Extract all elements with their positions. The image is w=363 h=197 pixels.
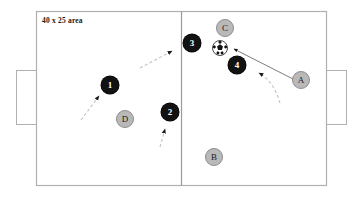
player-token-1[interactable]: 1 (101, 76, 119, 94)
player-token-label: B (211, 153, 217, 162)
right-goal (327, 71, 347, 125)
run-toward-player-2 (160, 129, 165, 147)
left-goal (17, 71, 37, 125)
player-token-label: D (122, 115, 129, 124)
player-token-label: 2 (168, 108, 173, 117)
player-token-b[interactable]: B (205, 148, 223, 166)
player-token-label: C (222, 24, 228, 33)
run-toward-upper-right (140, 51, 172, 68)
pitch-graphics (0, 0, 363, 197)
player-token-3[interactable]: 3 (183, 34, 201, 52)
player-token-label: 3 (190, 39, 195, 48)
player-token-4[interactable]: 4 (228, 56, 246, 74)
player-token-label: 1 (108, 81, 113, 90)
soccer-tactics-diagram: 40 x 25 area 1 2 3 4 A B C D (0, 0, 363, 197)
player-token-2[interactable]: 2 (161, 103, 179, 121)
player-token-d[interactable]: D (116, 110, 134, 128)
player-token-a[interactable]: A (292, 71, 310, 89)
player-token-c[interactable]: C (216, 19, 234, 37)
run-toward-player-1 (81, 96, 99, 120)
run-of-player-a (259, 73, 280, 103)
player-token-label: A (298, 76, 305, 85)
area-size-label: 40 x 25 area (42, 16, 83, 25)
player-token-label: 4 (235, 61, 240, 70)
soccer-ball-icon (212, 40, 228, 60)
